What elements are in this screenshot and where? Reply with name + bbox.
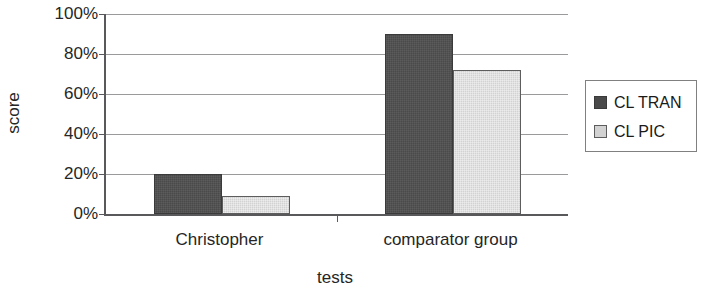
x-axis-tick <box>337 214 338 222</box>
y-axis-tick <box>99 214 106 215</box>
x-axis-title: tests <box>104 268 566 288</box>
y-axis-tick-label: 60% <box>26 85 98 102</box>
y-axis-tick <box>99 174 106 175</box>
legend-swatch-icon <box>594 96 607 109</box>
gridline <box>106 54 568 55</box>
bar <box>453 70 521 214</box>
bar <box>222 196 290 214</box>
y-axis-tick-label: 0% <box>26 205 98 222</box>
bar <box>385 34 453 214</box>
x-axis-category-labels: Christophercomparator group <box>104 230 566 256</box>
plot-area <box>104 14 568 216</box>
y-axis-tick-label: 20% <box>26 165 98 182</box>
y-axis-tick <box>99 54 106 55</box>
legend-label: CL TRAN <box>614 94 682 112</box>
y-axis-tick-labels: 0%20%40%60%80%100% <box>26 0 98 229</box>
y-axis-title: score <box>4 68 24 158</box>
bar-chart: score 0%20%40%60%80%100% Christophercomp… <box>0 0 708 299</box>
y-axis-tick-label: 100% <box>26 5 98 22</box>
gridline <box>106 14 568 15</box>
y-axis-tick <box>99 94 106 95</box>
legend: CL TRANCL PIC <box>585 80 697 152</box>
y-axis-tick <box>99 134 106 135</box>
legend-label: CL PIC <box>614 123 665 141</box>
legend-item[interactable]: CL TRAN <box>594 88 696 117</box>
y-axis-tick <box>99 14 106 15</box>
x-axis-category-label: Christopher <box>104 230 335 250</box>
legend-swatch-icon <box>594 125 607 138</box>
legend-item[interactable]: CL PIC <box>594 117 696 146</box>
bar <box>154 174 222 214</box>
y-axis-tick-label: 40% <box>26 125 98 142</box>
y-axis-tick-label: 80% <box>26 45 98 62</box>
x-axis-category-label: comparator group <box>335 230 566 250</box>
